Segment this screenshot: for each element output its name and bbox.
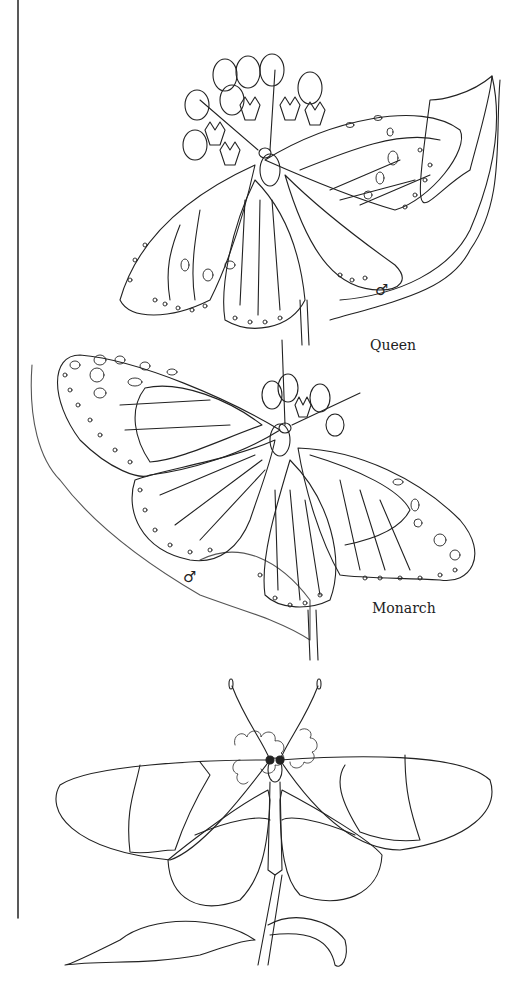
queen-illustration <box>120 54 500 345</box>
queen-male-symbol: ♂ <box>375 281 388 299</box>
monarch-male-symbol: ♂ <box>183 568 196 586</box>
monarch-label: Monarch <box>372 600 436 616</box>
clearwing-illustration <box>56 679 492 966</box>
coloring-page-art <box>0 0 525 988</box>
queen-label: Queen <box>370 337 416 353</box>
